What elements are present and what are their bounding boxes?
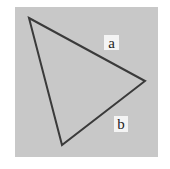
triangle-figure — [0, 0, 170, 169]
side-label-b: b — [114, 116, 128, 132]
side-label-a: a — [104, 35, 119, 50]
